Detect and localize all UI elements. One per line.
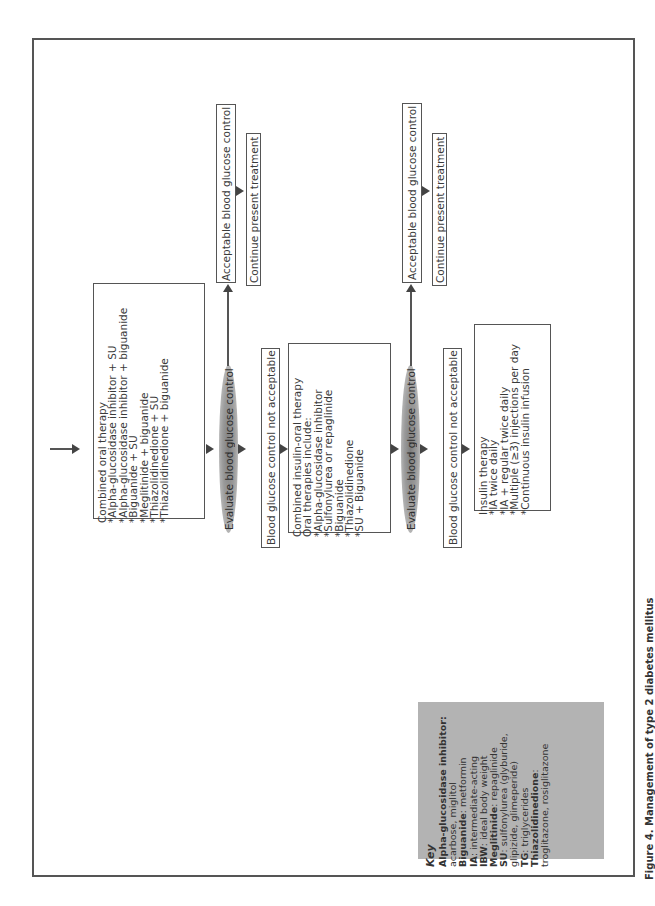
acceptable1-label: Acceptable blood glucose control [220,106,232,280]
acceptable-control-box-2: Acceptable blood glucose control [402,103,422,283]
key-title: Key [424,710,438,867]
evaluate1-label: Evaluate blood glucose control [219,365,238,533]
combined-insulin-oral-therapy-box: Combined insulin-oral therapy Oral thera… [288,343,391,533]
not-acceptable1-label: Blood glucose control not acceptable [265,351,277,546]
evaluate-blood-glucose-ellipse-1: Evaluate blood glucose control [219,365,238,533]
arrow-up-head-1 [223,284,233,292]
acceptable2-label: Acceptable blood glucose control [406,106,418,280]
continue-treatment-box-1: Continue present treatment [246,133,261,286]
arrow-to-not-acceptable2 [420,444,428,454]
arrow-to-evaluate1 [206,444,214,454]
key-legend-box: Key Alpha-glucosidase inhibitor: acarbos… [418,702,604,859]
evaluate-blood-glucose-ellipse-2: Evaluate blood glucose control [401,365,420,533]
combined-oral-therapy-box: Combined oral therapy *Alpha-glucosidase… [93,283,205,519]
arrow-up-line-2 [410,292,412,366]
not-acceptable-box-2: Blood glucose control not acceptable [443,348,462,548]
arrow-to-not-acceptable1 [238,444,246,454]
entry-arrow-head [72,444,80,454]
step3-item: *Continuous insulin infusion [520,330,530,515]
continue1-label: Continue present treatment [248,136,260,282]
arrow-to-continue1 [236,186,244,196]
arrow-to-continue2 [422,186,430,196]
continue-treatment-box-2: Continue present treatment [432,133,447,286]
entry-arrow-line [50,448,74,450]
step1-item: *Thiazolidinedione + biguanide [159,289,169,523]
acceptable-control-box-1: Acceptable blood glucose control [216,104,236,283]
key-entry: troglitazone, rosiglitazone [540,710,550,867]
evaluate2-label: Evaluate blood glucose control [401,365,420,533]
arrow-to-step2 [280,444,288,454]
step1-title: Combined oral therapy [97,289,107,523]
step2-title: Combined insulin-oral therapy [292,349,302,537]
insulin-therapy-box: Insulin therapy *IA twice daily *IA + re… [474,324,551,511]
arrow-up-line-1 [227,292,229,366]
figure-caption: Figure 4. Management of type 2 diabetes … [644,560,655,880]
arrow-up-head-2 [406,284,416,292]
arrow-to-step3 [462,444,470,454]
step2-item: *SU + Biguanide [354,349,364,537]
continue2-label: Continue present treatment [434,136,446,282]
not-acceptable-box-1: Blood glucose control not acceptable [261,348,280,548]
arrow-to-evaluate2 [391,444,399,454]
not-acceptable2-label: Blood glucose control not acceptable [447,351,459,546]
